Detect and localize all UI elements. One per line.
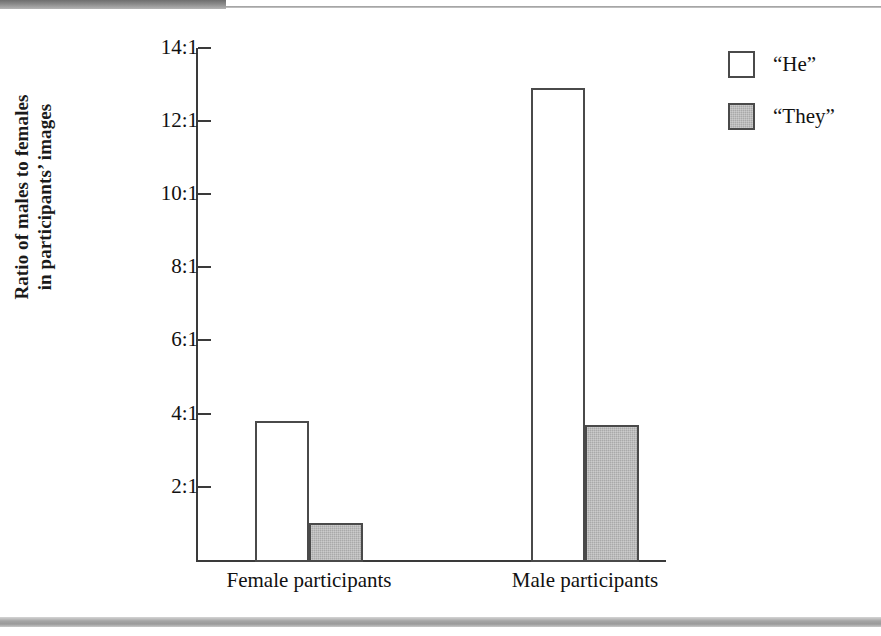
bar-he-male — [531, 88, 585, 562]
legend-swatch-they-icon — [728, 103, 755, 130]
y-tick-label: 6:1 — [106, 327, 198, 352]
bar-he-female — [255, 421, 309, 562]
y-tick-label: 8:1 — [106, 254, 198, 279]
chart-page: Ratio of males to females in participant… — [0, 0, 881, 636]
y-axis-title: Ratio of males to females in participant… — [10, 52, 56, 342]
x-group-label-female: Female participants — [197, 568, 421, 593]
page-top-rule — [226, 6, 881, 8]
legend-swatch-he-icon — [728, 51, 755, 78]
plot-area: Ratio of males to females in participant… — [0, 12, 881, 592]
y-tick-label: 12:1 — [106, 108, 198, 133]
bar-they-female — [309, 523, 363, 562]
bar-they-male — [585, 425, 639, 562]
legend: “He” “They” — [728, 38, 835, 142]
legend-item-he[interactable]: “He” — [728, 38, 835, 90]
y-axis-title-line-2: in participants’ images — [34, 104, 55, 291]
y-tick-label: 2:1 — [106, 474, 198, 499]
page-bottom-bar — [0, 617, 881, 627]
y-tick-mark — [198, 193, 211, 195]
y-tick-mark — [198, 120, 211, 122]
y-tick-label: 14:1 — [106, 35, 198, 60]
y-tick-mark — [198, 339, 211, 341]
legend-item-they[interactable]: “They” — [728, 90, 835, 142]
y-tick-label: 4:1 — [106, 401, 198, 426]
y-tick-mark — [198, 486, 211, 488]
y-tick-mark — [198, 413, 211, 415]
y-tick-label: 10:1 — [106, 181, 198, 206]
page-top-dark-bar — [0, 0, 226, 9]
legend-label-they: “They” — [773, 104, 835, 129]
y-axis-title-line-1: Ratio of males to females — [11, 94, 32, 299]
y-tick-mark — [198, 266, 211, 268]
x-group-label-male: Male participants — [473, 568, 697, 593]
y-tick-mark — [198, 47, 211, 49]
legend-label-he: “He” — [773, 52, 816, 77]
